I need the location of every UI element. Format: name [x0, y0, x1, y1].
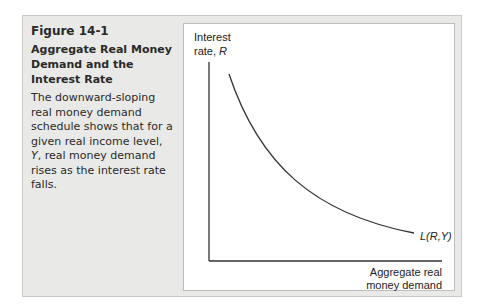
figure-title: Aggregate Real Money Demand and the Inte… [31, 42, 176, 87]
curve-label: L(R,Y) [420, 230, 452, 242]
x-axis-label-line1: Aggregate real [370, 266, 442, 278]
figure-number: Figure 14-1 [31, 24, 176, 38]
y-axis-label-line2: rate, R [194, 45, 227, 57]
caption-text-end: , real money demand rises as the interes… [31, 149, 166, 191]
y-axis-label-line1: Interest [194, 31, 231, 43]
figure-sidebar: Figure 14-1 Aggregate Real Money Demand … [31, 24, 176, 193]
money-demand-plot: Interest rate, R L(R,Y) Aggregate real m… [184, 24, 456, 292]
chart-area: Interest rate, R L(R,Y) Aggregate real m… [183, 23, 455, 291]
x-axis-label-line2: money demand [366, 279, 442, 291]
figure-caption: The downward-sloping real money demand s… [31, 91, 176, 193]
demand-curve [229, 74, 414, 233]
caption-var: Y [31, 149, 38, 162]
caption-text: The downward-sloping real money demand s… [31, 91, 173, 148]
